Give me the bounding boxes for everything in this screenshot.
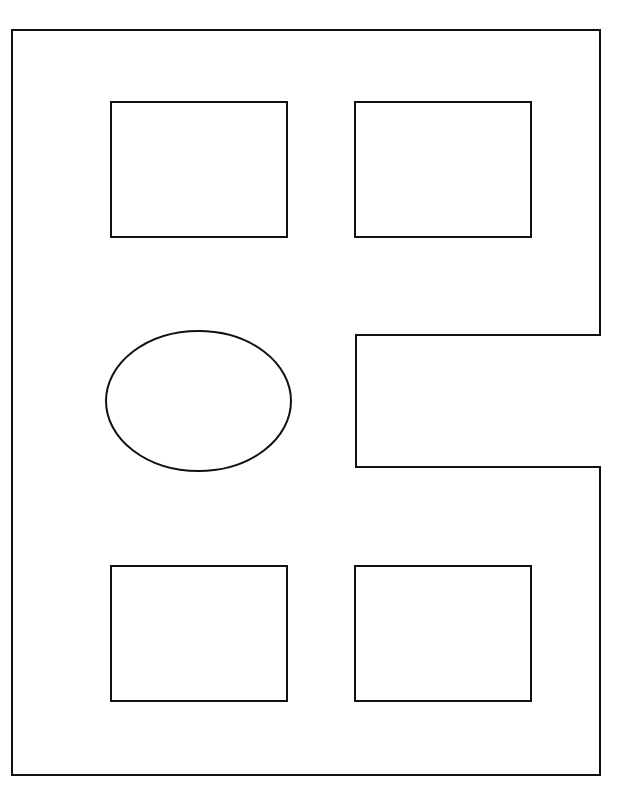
ellipse-shape xyxy=(106,331,291,471)
rectangle-top-left xyxy=(111,102,287,237)
rectangle-bottom-left xyxy=(111,566,287,701)
diagram-canvas xyxy=(0,0,619,793)
rectangle-bottom-right xyxy=(355,566,531,701)
outer-frame-with-notch xyxy=(12,30,600,775)
rectangle-top-right xyxy=(355,102,531,237)
